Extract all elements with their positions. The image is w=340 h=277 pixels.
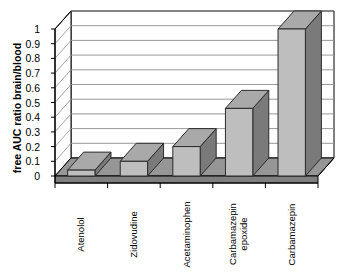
x-axis-category-labels: AtenololZidovudineAcetaminophenCarbamaze… [0, 0, 340, 277]
x-axis-category-label: Carbamazepin [286, 192, 297, 276]
x-axis-category-label: Acetaminophen [181, 192, 192, 276]
x-axis-category-label: Atenolol [76, 192, 87, 276]
x-axis-category-label: Carbamazepin epoxide [228, 192, 250, 276]
bar-chart: free AUC ratio brain/blood 00.10.20.30.4… [0, 0, 340, 277]
x-axis-category-label: Zidovudine [128, 192, 139, 276]
